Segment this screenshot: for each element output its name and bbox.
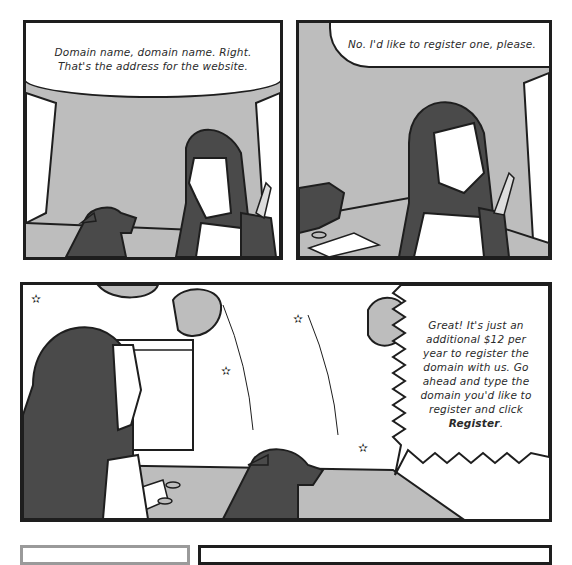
comic-panel-3: ✫ ✫ ✫ ✫ Great! It's just an additional $… xyxy=(20,282,552,522)
speech-bubble-panel-3: Great! It's just an additional $12 per y… xyxy=(403,299,549,449)
speech-bubble-panel-1: Domain name, domain name. Right. That's … xyxy=(23,20,283,98)
svg-text:✫: ✫ xyxy=(358,441,368,455)
speech-line: Great! It's just an xyxy=(420,318,531,332)
svg-text:✫: ✫ xyxy=(293,312,303,326)
speech-bubble-panel-2: No. I'd like to register one, please. xyxy=(329,20,552,68)
speech-line: register and click xyxy=(420,402,531,416)
comic-panel-2: No. I'd like to register one, please. xyxy=(296,20,552,260)
speech-line: domain you'd like to xyxy=(420,388,531,402)
speech-line: Domain name, domain name. Right. xyxy=(54,45,251,59)
comic-panel-5-partial xyxy=(198,545,552,565)
speech-line: additional $12 per xyxy=(420,332,531,346)
comic-panel-1: Domain name, domain name. Right. That's … xyxy=(23,20,283,260)
speech-line: That's the address for the website. xyxy=(54,59,251,73)
register-emphasis: Register xyxy=(449,417,500,429)
svg-text:✫: ✫ xyxy=(221,364,231,378)
speech-line: year to register the xyxy=(420,346,531,360)
speech-line: domain with us. Go xyxy=(420,360,531,374)
star-icon: ✫ xyxy=(31,292,41,306)
speech-line-emphasis: Register. xyxy=(420,416,531,430)
speech-text: No. I'd like to register one, please. xyxy=(348,37,536,51)
comic-panel-4-partial xyxy=(20,545,190,565)
speech-line: ahead and type the xyxy=(420,374,531,388)
